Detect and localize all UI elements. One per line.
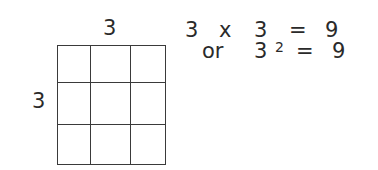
eq1-equals-sign: = bbox=[289, 20, 307, 41]
eq2-or-label: or bbox=[202, 41, 223, 62]
eq2-exponent: 2 bbox=[275, 40, 284, 54]
grid-vertical-line bbox=[130, 46, 131, 164]
eq1-left-operand: 3 bbox=[185, 20, 198, 41]
eq1-result: 9 bbox=[325, 20, 338, 41]
grid-height-label: 3 bbox=[32, 91, 45, 112]
grid-width-label: 3 bbox=[103, 18, 116, 39]
grid-horizontal-line bbox=[58, 82, 165, 83]
eq1-times-sign: x bbox=[219, 20, 231, 41]
eq2-result: 9 bbox=[332, 41, 345, 62]
eq2-equals-sign: = bbox=[296, 41, 314, 62]
eq2-base: 3 bbox=[254, 41, 267, 62]
eq1-right-operand: 3 bbox=[254, 20, 267, 41]
three-by-three-grid bbox=[57, 45, 166, 165]
grid-horizontal-line bbox=[58, 124, 165, 125]
grid-vertical-line bbox=[90, 46, 91, 164]
